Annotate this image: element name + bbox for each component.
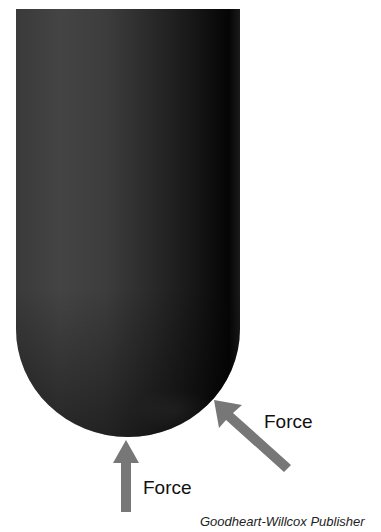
- force-arrows: [0, 0, 381, 532]
- bottom-force-arrow-icon: [113, 440, 139, 512]
- angled-force-label: Force: [264, 411, 313, 433]
- bottom-force-label: Force: [143, 477, 192, 499]
- publisher-credit: Goodheart-Willcox Publisher: [200, 514, 365, 529]
